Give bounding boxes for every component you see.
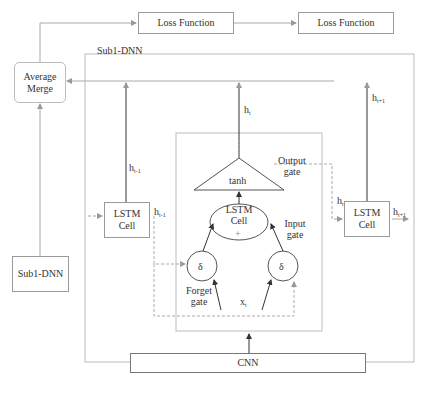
average-merge-box: Average Merge (14, 62, 66, 103)
loss-function-box-1: Loss Function (138, 12, 234, 34)
lstm-cell-left: LSTM Cell (104, 202, 150, 238)
lstm-cell-right: LSTM Cell (344, 201, 390, 237)
forget-sigma-label: δ (198, 261, 203, 272)
h-subscript: t+1 (398, 212, 406, 218)
tanh-label: tanh (229, 175, 246, 186)
loss-function-box-2: Loss Function (298, 12, 394, 34)
lstm-cell-center-plus: + (235, 228, 241, 239)
h-subscript: t+1 (377, 98, 385, 104)
h-subscript: t-1 (159, 212, 166, 218)
h-t-side-label: ht (337, 195, 344, 210)
sub1-dnn-box: Sub1-DNN (12, 256, 69, 292)
x-subscript: t (245, 302, 247, 308)
output-gate-label: Output gate (272, 155, 312, 177)
forget-gate-label: Forget gate (183, 285, 215, 307)
h-subscript: t (342, 201, 344, 207)
input-sigma-label: δ (279, 261, 284, 272)
h-t-minus-1-top-label: ht-1 (129, 162, 141, 177)
h-t-minus-1-side-label: ht-1 (154, 206, 166, 221)
x-t-label: xt (240, 296, 247, 311)
input-gate-label: Input gate (280, 218, 310, 240)
sub1-dnn-container-label: Sub1-DNN (97, 45, 143, 56)
h-subscript: t-1 (134, 168, 141, 174)
cnn-box: CNN (130, 353, 366, 373)
h-t-top-label: ht (244, 104, 251, 119)
h-subscript: t (249, 110, 251, 116)
h-t-plus-1-top-label: ht+1 (372, 92, 385, 107)
lstm-cell-center-label: LSTM Cell (222, 204, 256, 226)
h-t-plus-1-side-label: ht+1 (393, 206, 406, 221)
